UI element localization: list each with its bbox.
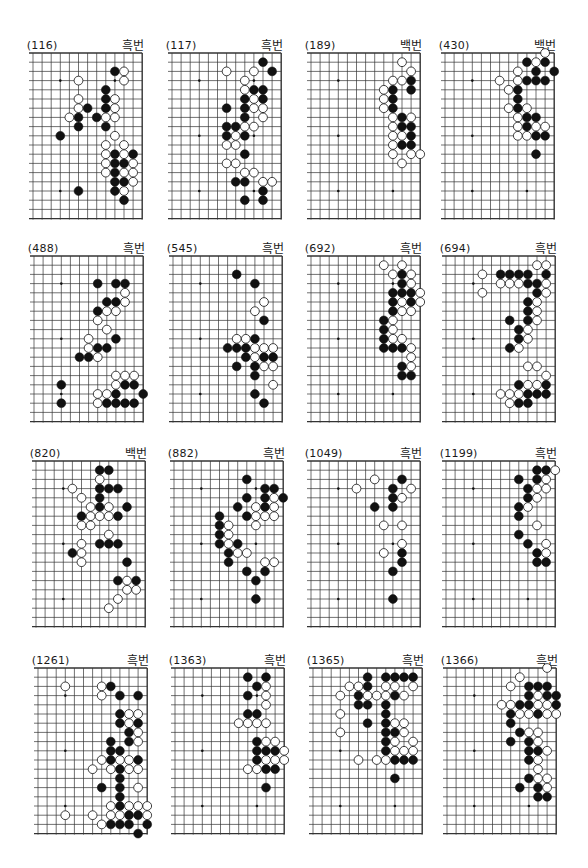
black-stone <box>124 728 133 737</box>
white-stone <box>541 539 550 548</box>
white-stone <box>533 765 542 774</box>
black-stone <box>106 820 115 829</box>
star-point <box>201 694 204 697</box>
white-stone <box>124 719 133 728</box>
black-stone <box>101 122 110 131</box>
black-stone <box>269 484 278 493</box>
white-stone <box>261 756 270 765</box>
black-stone <box>102 298 111 307</box>
white-stone <box>336 728 345 737</box>
white-stone <box>352 484 361 493</box>
black-stone <box>243 691 252 700</box>
white-stone <box>270 756 279 765</box>
star-point <box>337 190 340 193</box>
star-point <box>473 694 476 697</box>
white-stone <box>106 765 115 774</box>
white-stone <box>533 728 542 737</box>
white-stone <box>381 691 390 700</box>
white-stone <box>478 270 487 279</box>
white-stone <box>505 399 514 408</box>
black-stone <box>523 307 532 316</box>
white-stone <box>88 811 97 820</box>
star-point <box>525 190 528 193</box>
black-stone <box>381 700 390 709</box>
black-stone <box>242 567 251 576</box>
black-stone <box>252 746 261 755</box>
star-point <box>64 750 67 753</box>
white-stone <box>86 512 95 521</box>
white-stone <box>523 362 532 371</box>
black-stone <box>77 512 86 521</box>
black-stone <box>93 279 102 288</box>
black-stone <box>115 820 124 829</box>
white-stone <box>505 279 514 288</box>
black-stone <box>101 85 110 94</box>
black-stone <box>113 484 122 493</box>
white-stone <box>93 316 102 325</box>
white-stone <box>77 549 86 558</box>
black-stone <box>258 95 267 104</box>
black-stone <box>533 746 542 755</box>
black-stone <box>550 67 559 76</box>
black-stone <box>261 765 270 774</box>
black-stone <box>379 334 388 343</box>
black-stone <box>258 187 267 196</box>
black-stone <box>120 279 129 288</box>
black-stone <box>115 765 124 774</box>
black-stone <box>531 113 540 122</box>
white-stone <box>250 353 259 362</box>
black-stone <box>381 728 390 737</box>
white-stone <box>542 746 551 755</box>
black-stone <box>268 353 277 362</box>
white-stone <box>514 344 523 353</box>
black-stone <box>540 76 549 85</box>
white-stone <box>379 104 388 113</box>
black-stone <box>131 576 140 585</box>
black-stone <box>524 682 533 691</box>
black-stone <box>113 539 122 548</box>
white-stone <box>68 484 77 493</box>
black-stone <box>397 362 406 371</box>
star-point <box>60 282 63 285</box>
black-stone <box>515 783 524 792</box>
white-stone <box>397 307 406 316</box>
star-point <box>391 393 394 396</box>
white-stone <box>406 270 415 279</box>
go-problem: (545)흑번 <box>167 242 290 442</box>
white-stone <box>399 719 408 728</box>
go-board <box>167 242 290 430</box>
black-stone <box>95 503 104 512</box>
white-stone <box>101 168 110 177</box>
black-stone <box>215 539 224 548</box>
white-stone <box>232 334 241 343</box>
black-stone <box>531 67 540 76</box>
white-stone <box>496 279 505 288</box>
white-stone <box>406 279 415 288</box>
star-point <box>198 135 201 138</box>
star-point <box>255 805 258 808</box>
black-stone <box>381 673 390 682</box>
black-stone <box>542 691 551 700</box>
white-stone <box>240 122 249 131</box>
black-stone <box>522 122 531 131</box>
white-stone <box>133 802 142 811</box>
black-stone <box>390 728 399 737</box>
black-stone <box>250 371 259 380</box>
black-stone <box>406 141 415 150</box>
white-stone <box>542 700 551 709</box>
black-stone <box>397 288 406 297</box>
star-point <box>62 543 65 546</box>
black-stone <box>514 380 523 389</box>
white-stone <box>379 95 388 104</box>
star-point <box>337 135 340 138</box>
black-stone <box>252 737 261 746</box>
white-stone <box>120 371 129 380</box>
white-stone <box>261 737 270 746</box>
white-stone <box>95 475 104 484</box>
star-point <box>391 543 394 546</box>
black-stone <box>104 484 113 493</box>
black-stone <box>524 774 533 783</box>
white-stone <box>388 150 397 159</box>
white-stone <box>270 737 279 746</box>
white-stone <box>388 325 397 334</box>
